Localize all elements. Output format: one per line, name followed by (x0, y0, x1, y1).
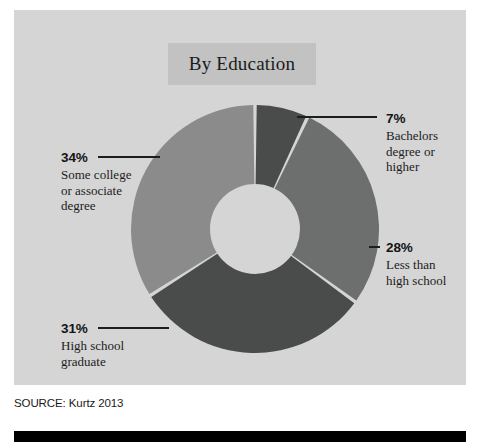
education-donut-figure: By Education 7% Bachelors degree or high… (0, 0, 481, 448)
source-note: SOURCE: Kurtz 2013 (14, 397, 123, 409)
chart-panel: By Education 7% Bachelors degree or high… (14, 10, 466, 385)
callout-some-college: 34% Some college or associate degree (61, 148, 181, 214)
callout-some-college-percent: 34% (61, 150, 88, 165)
callout-less-than-percent: 28% (386, 240, 413, 255)
donut-chart (131, 105, 379, 353)
leader-line-less-than (369, 246, 380, 248)
page-title: By Education (189, 53, 295, 75)
chart-title-band: By Education (168, 43, 316, 85)
callout-bachelors: 7% Bachelors degree or higher (386, 109, 481, 175)
callout-high-school-percent: 31% (61, 321, 88, 336)
bottom-divider-bar (14, 431, 466, 442)
callout-high-school: 31% High school graduate (61, 319, 181, 369)
callout-bachelors-text: Bachelors degree or higher (386, 128, 481, 175)
callout-some-college-text: Some college or associate degree (61, 167, 181, 214)
callout-high-school-text: High school graduate (61, 338, 181, 369)
leader-line-bachelors (297, 116, 377, 118)
callout-less-than-high-school: 28% Less than high school (386, 238, 481, 288)
donut-hole (210, 184, 300, 274)
callout-bachelors-percent: 7% (386, 111, 405, 126)
donut-chart-svg (131, 105, 379, 353)
callout-less-than-text: Less than high school (386, 257, 481, 288)
